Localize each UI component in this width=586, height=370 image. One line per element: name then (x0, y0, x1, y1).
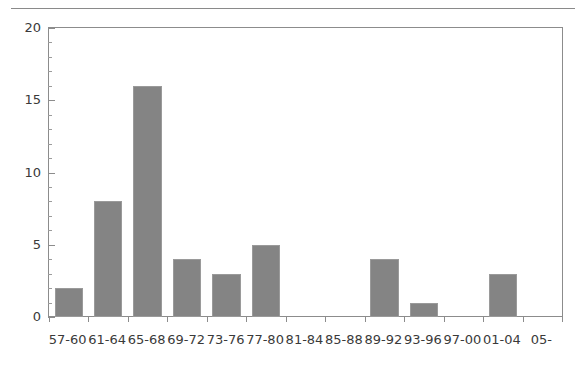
x-axis-tick (444, 317, 445, 322)
y-axis-label-group: 05101520 (0, 0, 41, 370)
x-axis-tick (88, 317, 89, 322)
x-axis-tick-label: 01-04 (483, 333, 521, 346)
x-axis-tick-label: 05- (531, 333, 552, 346)
x-axis-tick (523, 317, 524, 322)
x-axis-tick-label: 89-92 (365, 333, 403, 346)
x-axis-label-group: 57-6061-6465-6869-7273-7677-8081-8485-88… (48, 333, 563, 355)
x-axis-tick-label: 85-88 (325, 333, 363, 346)
x-axis-tick-label: 73-76 (207, 333, 245, 346)
x-axis-tick (562, 317, 563, 322)
bar-chart-figure: 05101520 57-6061-6465-6869-7273-7677-808… (0, 0, 586, 370)
x-axis-tick (49, 317, 50, 322)
y-axis-tick-label: 5 (33, 238, 41, 251)
x-axis-tick-label: 77-80 (246, 333, 284, 346)
x-axis-tick (483, 317, 484, 322)
x-axis-tick-label: 93-96 (404, 333, 442, 346)
plot-data-area (49, 28, 562, 317)
y-axis-tick-label: 0 (33, 310, 41, 323)
x-axis-tick (167, 317, 168, 322)
y-axis-tick-label: 10 (24, 166, 41, 179)
bar-57-60 (55, 288, 83, 317)
bar-65-68 (133, 86, 161, 317)
x-axis-tick (365, 317, 366, 322)
x-axis-tick (286, 317, 287, 322)
x-axis-tick (128, 317, 129, 322)
x-axis-tick-label: 69-72 (167, 333, 205, 346)
x-axis-tick (246, 317, 247, 322)
x-axis-tick-label: 57-60 (49, 333, 87, 346)
x-axis-tick-label: 81-84 (286, 333, 324, 346)
bar-89-92 (370, 259, 398, 317)
x-axis-tick-label: 61-64 (88, 333, 126, 346)
top-horizontal-rule (11, 8, 575, 9)
x-axis-tick-label: 65-68 (128, 333, 166, 346)
bar-61-64 (94, 201, 122, 317)
x-axis-tick (207, 317, 208, 322)
y-axis-tick-label: 20 (24, 21, 41, 34)
x-axis-tick (325, 317, 326, 322)
bar-77-80 (252, 245, 280, 317)
bar-93-96 (410, 303, 438, 317)
y-axis-tick-label: 15 (24, 93, 41, 106)
bar-01-04 (489, 274, 517, 317)
x-axis-tick-label: 97-00 (443, 333, 481, 346)
x-axis-tick (404, 317, 405, 322)
bar-73-76 (212, 274, 240, 317)
bar-69-72 (173, 259, 201, 317)
